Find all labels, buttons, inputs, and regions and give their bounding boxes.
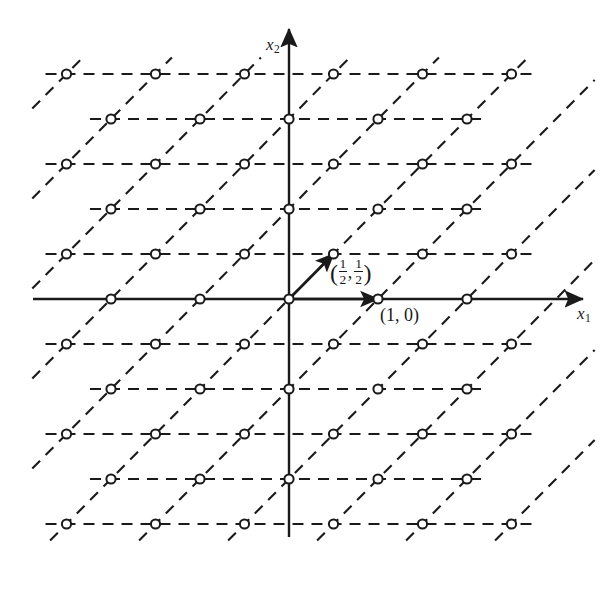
lattice-point [373,474,382,483]
lattice-point [462,204,471,213]
lattice-point [151,429,160,438]
lattice-point [106,204,115,213]
lattice-point [284,384,293,393]
lattice-canvas [0,0,611,592]
lattice-point [373,384,382,393]
lattice-point [106,474,115,483]
lattice-point [62,249,71,258]
lattice-line-diagonal [139,80,595,541]
lattice-point [195,114,204,123]
lattice-point [151,249,160,258]
lattice-point [373,114,382,123]
lattice-point [507,339,516,348]
lattice-point [507,519,516,528]
lattice-point [195,384,204,393]
lattice-point [240,429,249,438]
lattice-point [284,114,293,123]
lattice-point [462,384,471,393]
lattice-point [418,339,427,348]
lattice-point [195,204,204,213]
lattice-point [62,519,71,528]
lattice-point [329,339,338,348]
lattice-point [329,519,338,528]
basis-vector-diagonal [289,254,334,299]
fraction-one-half-second: 12 [354,257,363,287]
y-axis-label-base: x [266,35,274,54]
y-axis-label: x2 [266,36,280,56]
lattice-point [151,69,160,78]
lattice-point [462,114,471,123]
lattice-point [462,294,471,303]
lattice-point [418,69,427,78]
lattice-point [373,204,382,213]
lattice-point [240,159,249,168]
lattice-point [329,429,338,438]
lattice-point [284,294,293,303]
label-comma: , [348,262,353,282]
lattice-point [62,339,71,348]
lattice-point [284,474,293,483]
diagonal-basis-vector-label: (12,12) [330,257,372,287]
lattice-point [329,159,338,168]
lattice-point [507,69,516,78]
x-axis-label: x1 [577,305,591,325]
open-paren: ( [330,260,338,286]
lattice-point [507,249,516,258]
lattice-point [507,429,516,438]
lattice-point [62,69,71,78]
lattice-point [106,384,115,393]
coordinate-axes [33,29,583,537]
lattice-point [151,519,160,528]
lattice-point [106,294,115,303]
lattice-point [62,159,71,168]
lattice-point [195,294,204,303]
lattice-point [373,294,382,303]
lattice-point [240,249,249,258]
lattice-point [418,249,427,258]
close-paren: ) [364,260,372,286]
lattice-point [284,204,293,213]
y-axis-label-subscript: 2 [274,43,280,55]
lattice-point [62,429,71,438]
lattice-point [462,474,471,483]
lattice-point [106,114,115,123]
fraction-one-half-first: 12 [339,257,348,287]
lattice-point [240,519,249,528]
x-axis-label-subscript: 1 [585,312,591,324]
horizontal-basis-vector-label: (1, 0) [380,306,419,324]
lattice-line-diagonal [32,57,350,378]
lattice-point [151,159,160,168]
lattice-point [329,69,338,78]
lattice-line-diagonal [406,350,595,541]
lattice-line-diagonal [32,57,83,108]
lattice-line-diagonal [32,57,172,198]
lattice-point [507,159,516,168]
lattice-point [418,159,427,168]
lattice-line-diagonal [317,260,595,541]
lattice-figure: x2 x1 (12,12) (1, 0) [0,0,611,592]
lattice-point [240,69,249,78]
lattice-line-diagonal [228,170,595,541]
lattice-point [151,339,160,348]
lattice-point [418,519,427,528]
lattice-point [418,429,427,438]
lattice-point [240,339,249,348]
x-axis-label-base: x [577,304,585,323]
lattice-point [195,474,204,483]
